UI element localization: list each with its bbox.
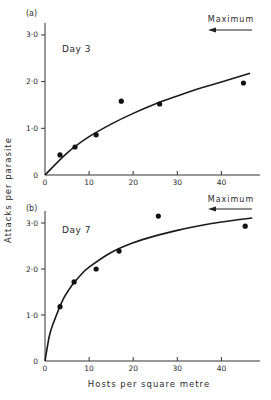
panel-b-day-7: 01·02·03·0010203040(b)Day 7Maximum bbox=[26, 195, 260, 373]
data-point bbox=[72, 279, 77, 284]
y-tick-label: 0 bbox=[33, 171, 38, 180]
data-point bbox=[119, 99, 124, 104]
x-tick-label: 20 bbox=[128, 364, 138, 373]
data-point bbox=[94, 266, 99, 271]
x-tick-label: 40 bbox=[217, 178, 227, 187]
data-point bbox=[156, 214, 161, 219]
x-tick-label: 30 bbox=[173, 364, 183, 373]
data-point bbox=[116, 248, 121, 253]
data-point bbox=[241, 80, 246, 85]
panel-label: (a) bbox=[26, 9, 37, 18]
maximum-label: Maximum bbox=[208, 15, 254, 24]
arrow-left-icon bbox=[208, 207, 216, 212]
day-title: Day 7 bbox=[62, 225, 91, 235]
panel-label: (b) bbox=[26, 204, 37, 213]
figure: 01·02·03·0010203040(a)Day 3Maximum 01·02… bbox=[0, 0, 271, 400]
x-tick-label: 0 bbox=[43, 178, 48, 187]
fitted-curve bbox=[45, 218, 252, 361]
x-tick-label: 0 bbox=[43, 364, 48, 373]
panel-a-day-3: 01·02·03·0010203040(a)Day 3Maximum bbox=[26, 9, 260, 187]
y-axis-title: Attacks per parasite bbox=[3, 137, 13, 243]
maximum-label: Maximum bbox=[208, 195, 254, 204]
data-point bbox=[57, 152, 62, 157]
y-tick-label: 1·0 bbox=[26, 124, 38, 133]
x-tick-label: 40 bbox=[217, 364, 227, 373]
arrow-left-icon bbox=[208, 28, 216, 33]
x-tick-label: 10 bbox=[84, 178, 94, 187]
y-tick-label: 0 bbox=[33, 357, 38, 366]
data-point bbox=[57, 304, 62, 309]
y-tick-label: 1·0 bbox=[26, 311, 38, 320]
x-tick-label: 10 bbox=[84, 364, 94, 373]
y-tick-label: 3·0 bbox=[26, 219, 38, 228]
y-tick-label: 3·0 bbox=[26, 30, 38, 39]
data-point bbox=[157, 101, 162, 106]
data-point bbox=[243, 224, 248, 229]
y-tick-label: 2·0 bbox=[26, 77, 38, 86]
x-axis-title: Hosts per square metre bbox=[88, 379, 210, 389]
day-title: Day 3 bbox=[62, 44, 91, 54]
data-point bbox=[72, 144, 77, 149]
x-tick-label: 20 bbox=[128, 178, 138, 187]
y-tick-label: 2·0 bbox=[26, 265, 38, 274]
data-point bbox=[94, 132, 99, 137]
fitted-curve bbox=[45, 73, 250, 175]
x-tick-label: 30 bbox=[173, 178, 183, 187]
